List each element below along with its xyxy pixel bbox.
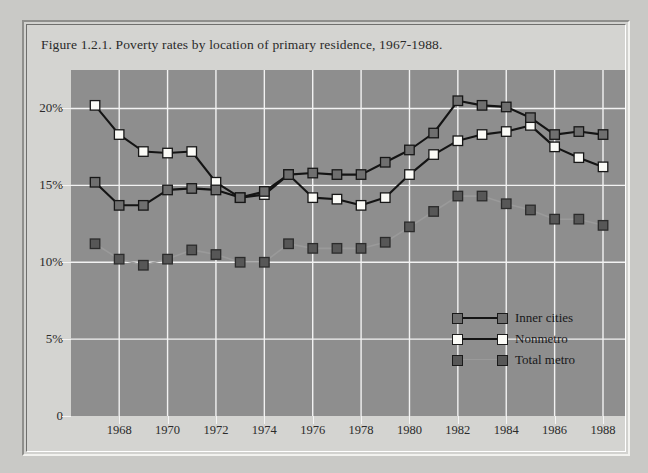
y-axis-tick [62, 416, 71, 417]
x-axis-tick [313, 416, 314, 424]
x-axis-tick [409, 416, 410, 424]
x-axis-tick [555, 416, 556, 424]
data-point-marker [163, 254, 173, 264]
y-axis-tick-label: 10% [39, 254, 63, 270]
legend-marker [497, 355, 508, 366]
data-point-marker [405, 145, 415, 155]
legend-marker [497, 334, 508, 345]
data-point-marker [332, 170, 342, 180]
x-axis-tick-label: 1988 [591, 423, 616, 438]
data-point-marker [429, 207, 439, 217]
data-point-marker [235, 193, 245, 203]
data-point-marker [574, 214, 584, 224]
data-point-marker [502, 102, 512, 112]
data-point-marker [284, 170, 294, 180]
plot-wrapper: 20%15%10%5%0 196819701972197419761978198… [71, 70, 625, 416]
x-axis-tick-label: 1980 [397, 423, 422, 438]
data-point-marker [308, 168, 318, 178]
data-point-marker [405, 170, 415, 180]
data-point-marker [550, 214, 560, 224]
x-axis-tick-label: 1974 [252, 423, 277, 438]
data-point-marker [308, 244, 318, 254]
x-axis-tick-label: 1986 [542, 423, 567, 438]
data-point-marker [477, 191, 487, 201]
x-axis-tick [119, 416, 120, 424]
data-point-marker [114, 201, 124, 211]
y-axis-tick [62, 339, 71, 340]
data-point-marker [429, 128, 439, 138]
legend-swatch [452, 332, 508, 346]
legend-line [458, 317, 502, 319]
data-point-marker [502, 199, 512, 209]
data-point-marker [90, 239, 100, 249]
data-point-marker [356, 201, 366, 211]
legend-line [458, 359, 502, 361]
x-axis-tick [216, 416, 217, 424]
x-axis-tick-label: 1978 [349, 423, 374, 438]
data-point-marker [405, 222, 415, 232]
y-axis-tick-label: 5% [46, 331, 63, 347]
data-point-marker [356, 244, 366, 254]
figure-title: Figure 1.2.1. Poverty rates by location … [41, 37, 442, 53]
legend-marker [497, 313, 508, 324]
legend-label: Inner cities [508, 310, 573, 326]
data-point-marker [211, 250, 221, 259]
data-point-marker [163, 148, 173, 158]
legend-swatch [452, 311, 508, 325]
x-axis-tick [458, 416, 459, 424]
legend-marker [452, 355, 463, 366]
x-axis-tick-label: 1984 [494, 423, 519, 438]
data-point-marker [429, 150, 439, 160]
legend-line [458, 338, 502, 340]
data-point-marker [139, 201, 149, 211]
y-axis-tick-label: 15% [39, 177, 63, 193]
x-axis-tick [361, 416, 362, 424]
legend-item: Total metro [452, 349, 609, 370]
y-axis-tick-label: 20% [39, 100, 63, 116]
data-point-marker [139, 261, 149, 271]
data-point-marker [381, 193, 391, 203]
data-point-marker [453, 96, 463, 106]
x-axis-tick-label: 1972 [203, 423, 228, 438]
data-point-marker [235, 258, 245, 268]
data-point-marker [453, 191, 463, 201]
data-point-marker [332, 244, 342, 254]
data-point-marker [381, 158, 391, 168]
chart-legend: Inner citiesNonmetroTotal metro [448, 303, 611, 374]
y-axis-tick [62, 108, 71, 109]
data-point-marker [260, 187, 270, 197]
data-point-marker [163, 185, 173, 195]
data-point-marker [598, 162, 608, 172]
figure-page: Figure 1.2.1. Poverty rates by location … [0, 0, 648, 473]
data-point-marker [211, 185, 221, 195]
y-axis-tick [62, 185, 71, 186]
data-point-marker [187, 245, 197, 255]
x-axis-tick [168, 416, 169, 424]
data-point-marker [550, 142, 560, 152]
x-axis-tick-label: 1968 [107, 423, 132, 438]
data-point-marker [598, 221, 608, 231]
legend-swatch [452, 353, 508, 367]
figure-frame: Figure 1.2.1. Poverty rates by location … [22, 20, 630, 456]
data-point-marker [308, 193, 318, 203]
x-axis-tick [506, 416, 507, 424]
legend-marker [452, 313, 463, 324]
data-point-marker [574, 153, 584, 163]
data-point-marker [598, 130, 608, 140]
x-axis-tick-label: 1970 [155, 423, 180, 438]
legend-item: Inner cities [452, 307, 609, 328]
data-point-marker [356, 170, 366, 180]
figure-inner-panel: Figure 1.2.1. Poverty rates by location … [26, 24, 626, 452]
legend-label: Total metro [508, 352, 575, 368]
data-point-marker [477, 101, 487, 111]
x-axis-tick [603, 416, 604, 424]
legend-item: Nonmetro [452, 328, 609, 349]
data-point-marker [526, 205, 536, 215]
data-point-marker [381, 238, 391, 248]
data-point-marker [453, 136, 463, 146]
legend-label: Nonmetro [508, 331, 568, 347]
data-point-marker [187, 147, 197, 157]
data-point-marker [332, 194, 342, 204]
x-axis-tick [264, 416, 265, 424]
x-axis-tick-label: 1976 [300, 423, 325, 438]
